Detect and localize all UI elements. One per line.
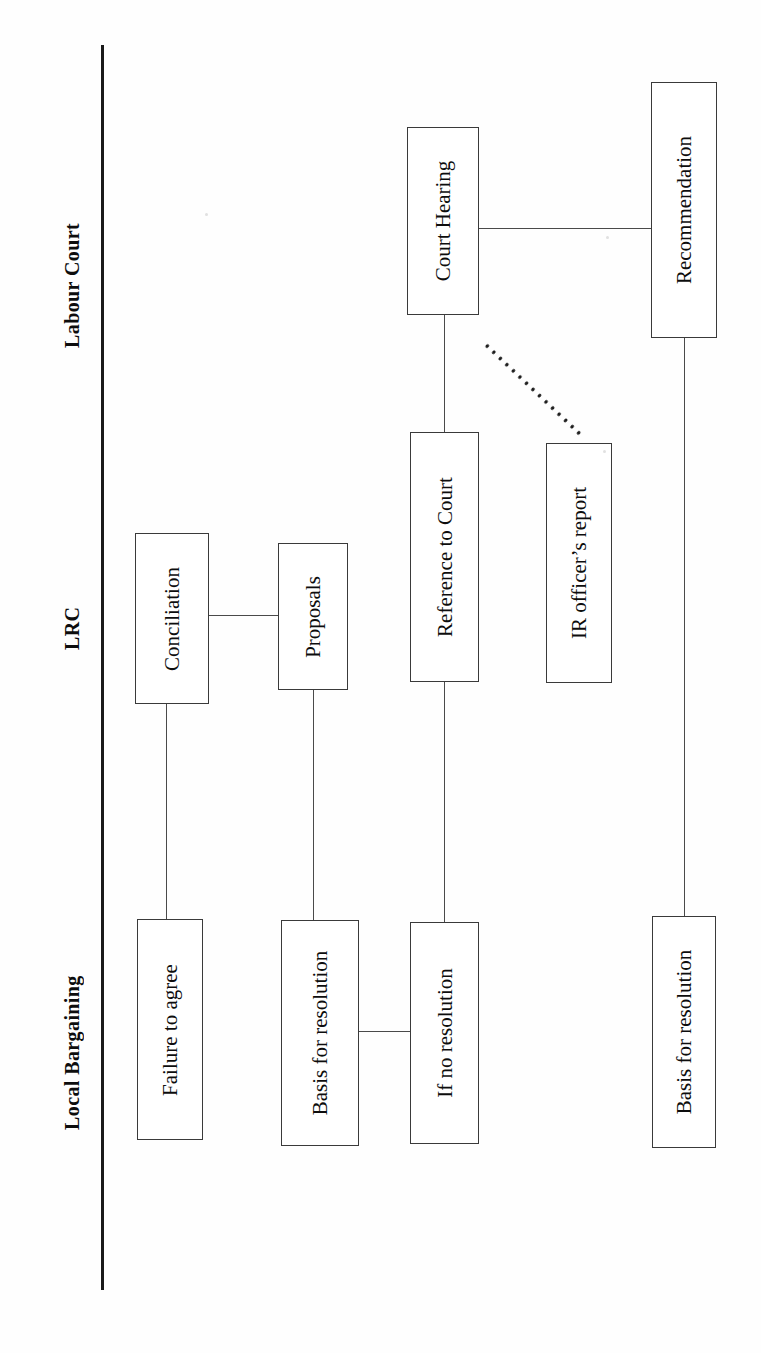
scan-speckle: [606, 236, 609, 239]
node-failure-to-agree[interactable]: Failure to agree: [137, 919, 203, 1140]
connector-proposals-to-basis-for-resolution: [313, 690, 314, 920]
connector-basis-for-resolution-to-if-no-resolution: [359, 1031, 410, 1032]
node-recommendation[interactable]: Recommendation: [651, 82, 717, 338]
connector-conciliation-to-failure-to-agree: [166, 704, 167, 919]
node-proposals-label: Proposals: [303, 576, 324, 658]
column-header-lrc: LRC: [62, 555, 82, 650]
scan-speckle: [205, 213, 208, 216]
header-divider-rule: [101, 45, 104, 1290]
node-reference-to-court-label: Reference to Court: [434, 477, 455, 637]
node-if-no-resolution[interactable]: If no resolution: [410, 922, 479, 1144]
node-reference-to-court[interactable]: Reference to Court: [410, 432, 479, 682]
node-basis-for-resolution-2-label: Basis for resolution: [674, 950, 695, 1114]
connector-court-hearing-to-recommendation: [479, 228, 651, 229]
node-conciliation-label: Conciliation: [162, 567, 183, 671]
column-header-local-bargaining: Local Bargaining: [62, 880, 82, 1130]
node-ir-officers-report-label: IR officer’s report: [569, 487, 590, 639]
node-if-no-resolution-label: If no resolution: [434, 968, 455, 1097]
node-basis-for-resolution-2[interactable]: Basis for resolution: [652, 916, 716, 1148]
node-court-hearing-label: Court Hearing: [433, 161, 454, 282]
connector-if-no-resolution-to-reference-to-court: [444, 682, 445, 922]
node-basis-for-resolution-1-label: Basis for resolution: [310, 951, 331, 1115]
scan-speckle: [603, 450, 606, 453]
node-conciliation[interactable]: Conciliation: [135, 533, 209, 704]
connector-court-hearing-to-ir-officers-report-dotted: [483, 342, 584, 438]
node-basis-for-resolution-1[interactable]: Basis for resolution: [281, 920, 359, 1146]
connector-reference-to-court-to-court-hearing: [444, 315, 445, 432]
node-recommendation-label: Recommendation: [674, 136, 695, 284]
connector-conciliation-to-proposals: [209, 615, 278, 616]
node-ir-officers-report[interactable]: IR officer’s report: [546, 443, 612, 683]
column-header-labour-court: Labour Court: [62, 118, 82, 348]
node-court-hearing[interactable]: Court Hearing: [407, 127, 479, 315]
diagram-canvas: Labour Court LRC Local Bargaining Court …: [0, 0, 761, 1353]
connector-recommendation-to-basis-for-resolution: [684, 338, 685, 916]
node-failure-to-agree-label: Failure to agree: [160, 964, 181, 1096]
node-proposals[interactable]: Proposals: [278, 543, 348, 690]
